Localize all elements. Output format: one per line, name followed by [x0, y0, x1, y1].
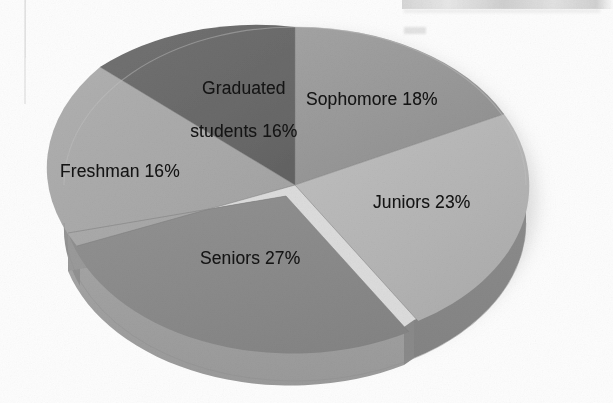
pie-chart-svg: [0, 0, 613, 403]
pie-chart: Graduated students 16% Sophomore 18% Jun…: [0, 0, 613, 403]
chart-page: Graduated students 16% Sophomore 18% Jun…: [0, 0, 613, 403]
slice-side-juniors-radial: [404, 320, 414, 365]
